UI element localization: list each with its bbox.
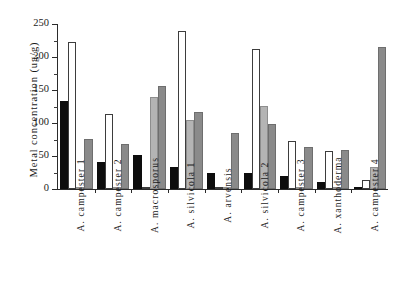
x-tick-label: A. xanthoderma (332, 156, 343, 233)
bar-group (205, 24, 242, 189)
bar (170, 167, 178, 189)
x-tick-label: A. arvensis (222, 167, 233, 222)
x-tick-label: A. silvicola 2 (259, 162, 270, 229)
bar (280, 176, 288, 189)
y-tick-label: 100 (33, 116, 49, 127)
x-label-cell: A. campester 3 (277, 193, 314, 298)
bar (244, 173, 252, 190)
metal-concentration-bar-chart: Metal concentration (ug/g) 0501001502002… (0, 0, 396, 299)
bar (207, 173, 215, 190)
x-label-cell: A. campester 4 (350, 193, 387, 298)
x-axis-labels: A. campester 1A. campester 2A. macrospor… (57, 193, 387, 298)
x-label-cell: A. silvicola 1 (167, 193, 204, 298)
y-tick-major (52, 189, 58, 190)
bar (97, 162, 105, 189)
x-tick-label: A. silvicola 1 (185, 162, 196, 229)
x-label-cell: A. macrosporus (130, 193, 167, 298)
x-label-cell: A. campester 2 (94, 193, 131, 298)
y-tick-label: 50 (39, 149, 50, 160)
x-tick-label: A. macrosporus (149, 157, 160, 233)
x-label-cell: A. silvicola 2 (240, 193, 277, 298)
bar (133, 155, 141, 189)
x-tick-label: A. campester 1 (75, 158, 86, 231)
bar (60, 101, 68, 189)
y-tick-label: 0 (44, 182, 49, 193)
x-label-cell: A. xanthoderma (314, 193, 351, 298)
y-tick-label: 200 (33, 50, 49, 61)
x-label-cell: A. arvensis (204, 193, 241, 298)
bar (354, 187, 362, 189)
x-label-cell: A. campester 1 (57, 193, 94, 298)
x-tick-label: A. campester 4 (369, 158, 380, 231)
bar (317, 182, 325, 189)
x-tick-label: A. campester 3 (295, 158, 306, 231)
y-tick-label: 250 (33, 17, 49, 28)
x-tick-label: A. campester 2 (112, 158, 123, 231)
y-tick-label: 150 (33, 83, 49, 94)
